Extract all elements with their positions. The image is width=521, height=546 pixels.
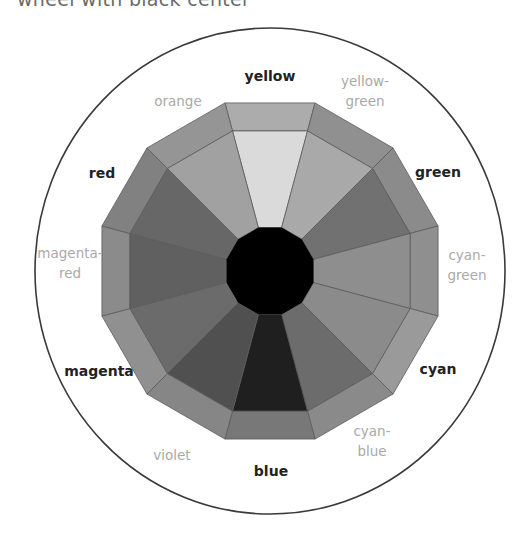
label-magenta-red: magenta-red (37, 245, 102, 281)
label-cyan-blue: cyan-blue (353, 423, 390, 459)
label-red: red (89, 165, 115, 181)
segment-outer-magenta-red (102, 226, 130, 316)
label-magenta: magenta (64, 363, 134, 379)
label-yellow-green: yellow-green (341, 73, 389, 109)
segment-outer-yellow (225, 103, 315, 131)
black-center (227, 228, 314, 315)
label-green: green (415, 164, 461, 180)
label-blue: blue (254, 463, 288, 479)
color-wheel: yellowyellow-greengreencyan-greencyancya… (0, 0, 521, 546)
segment-outer-cyan-green (410, 226, 438, 316)
label-orange: orange (154, 93, 202, 109)
label-violet: violet (153, 447, 190, 463)
label-yellow: yellow (245, 68, 296, 84)
label-cyan-green: cyan-green (448, 247, 487, 283)
label-cyan: cyan (420, 361, 457, 377)
segment-outer-blue (225, 411, 315, 439)
